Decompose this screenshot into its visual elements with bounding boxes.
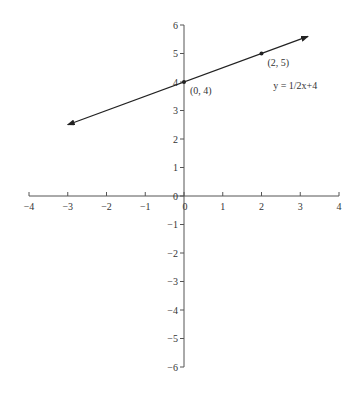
x-tick-label: −2 bbox=[101, 201, 112, 212]
y-tick-label: 3 bbox=[173, 105, 178, 116]
line-chart: −4−3−2−101234 −6−5−4−3−2−10123456 (0, 4)… bbox=[0, 0, 360, 397]
data-point bbox=[182, 80, 186, 84]
y-tick-label: 1 bbox=[173, 162, 178, 173]
x-tick-label: 0 bbox=[183, 201, 188, 212]
y-tick-label: −4 bbox=[167, 305, 178, 316]
x-tick-label: −4 bbox=[24, 201, 35, 212]
line-series bbox=[68, 36, 308, 124]
y-tick-label: 0 bbox=[173, 191, 178, 202]
y-tick-label: −6 bbox=[167, 362, 178, 373]
x-tick-label: 1 bbox=[220, 201, 225, 212]
y-tick-label: −5 bbox=[167, 333, 178, 344]
x-tick-label: −3 bbox=[62, 201, 73, 212]
y-tick-label: −3 bbox=[167, 276, 178, 287]
x-tick-label: 3 bbox=[298, 201, 303, 212]
y-tick-label: −1 bbox=[167, 219, 178, 230]
y-tick-label: 5 bbox=[173, 48, 178, 59]
y-tick-label: −2 bbox=[167, 248, 178, 259]
x-tick-label: 4 bbox=[337, 201, 342, 212]
point-label: (2, 5) bbox=[268, 57, 290, 69]
point-label: (0, 4) bbox=[190, 85, 212, 97]
annotations: y = 1/2x+4 bbox=[273, 80, 317, 91]
x-tick-label: −1 bbox=[140, 201, 151, 212]
data-point bbox=[260, 52, 264, 56]
y-tick-label: 2 bbox=[173, 134, 178, 145]
x-tick-label: 2 bbox=[259, 201, 264, 212]
data-series bbox=[68, 36, 308, 124]
equation-label: y = 1/2x+4 bbox=[273, 80, 317, 91]
x-axis-ticks: −4−3−2−101234 bbox=[24, 192, 342, 212]
y-tick-label: 6 bbox=[173, 20, 178, 31]
